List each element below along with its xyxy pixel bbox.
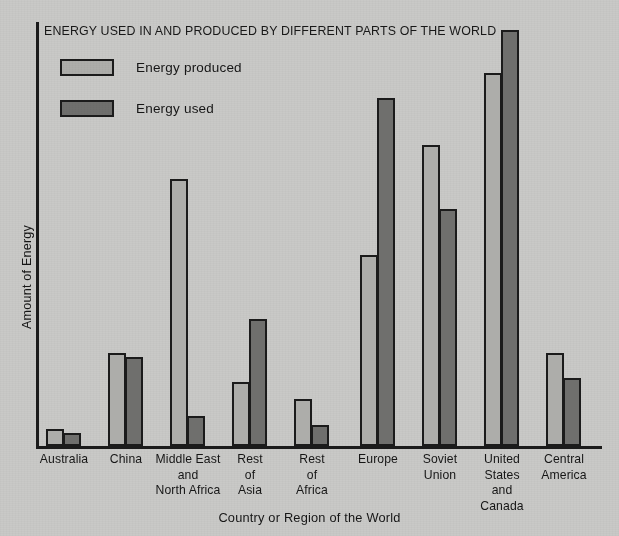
bar-used <box>125 357 143 446</box>
x-tick-label: CentralAmerica <box>518 452 610 483</box>
x-tick-label-line: and <box>456 483 548 499</box>
plot-area <box>36 22 602 446</box>
chart-canvas: ENERGY USED IN AND PRODUCED BY DIFFERENT… <box>0 0 619 536</box>
bar-group <box>108 22 144 446</box>
bar-used <box>439 209 457 446</box>
bar-produced <box>360 255 378 446</box>
x-axis-title: Country or Region of the World <box>0 510 619 525</box>
bar-produced <box>108 353 126 446</box>
x-tick-label-line: Africa <box>266 483 358 499</box>
bar-produced <box>484 73 502 446</box>
bar-group <box>294 22 330 446</box>
bar-group <box>484 22 520 446</box>
bar-produced <box>46 429 64 446</box>
y-axis-title: Amount of Energy <box>20 197 34 357</box>
bar-used <box>377 98 395 446</box>
x-axis-line <box>36 446 602 449</box>
bar-used <box>501 30 519 446</box>
bar-used <box>249 319 267 446</box>
bar-used <box>311 425 329 446</box>
bar-produced <box>422 145 440 446</box>
x-tick-label-line: America <box>518 468 610 484</box>
bar-used <box>63 433 81 446</box>
x-axis-tick-labels: AustraliaChinaMiddle EastandNorth Africa… <box>36 452 602 512</box>
bar-group <box>422 22 458 446</box>
bar-group <box>232 22 268 446</box>
bar-group <box>170 22 206 446</box>
bar-group <box>546 22 582 446</box>
bar-produced <box>294 399 312 446</box>
x-tick-label-line: Central <box>518 452 610 468</box>
bar-produced <box>170 179 188 446</box>
bar-produced <box>232 382 250 446</box>
bar-used <box>563 378 581 446</box>
bar-group <box>360 22 396 446</box>
bar-produced <box>546 353 564 446</box>
bar-used <box>187 416 205 446</box>
x-tick-label-line: of <box>266 468 358 484</box>
bar-group <box>46 22 82 446</box>
